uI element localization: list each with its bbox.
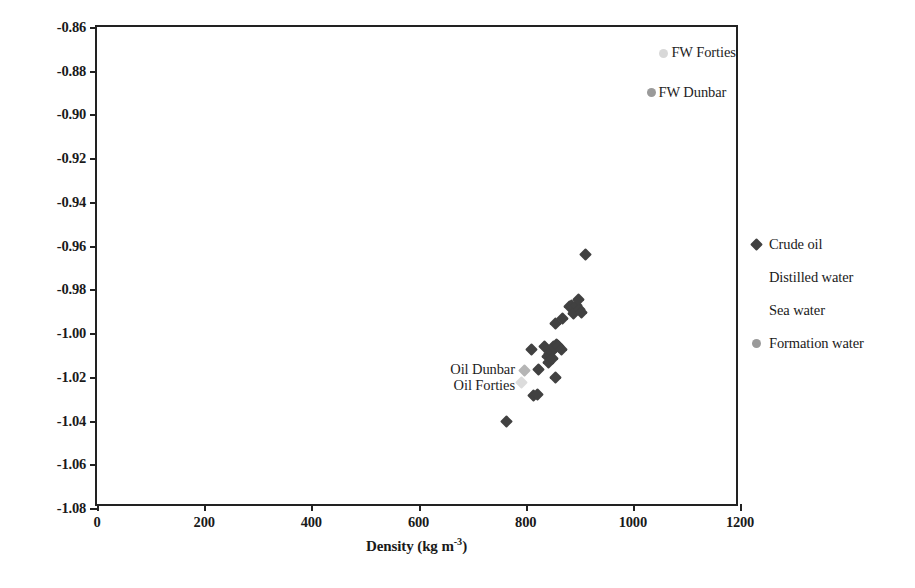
x-axis-tick bbox=[633, 504, 635, 511]
y-axis-tick-label: -0.94 bbox=[57, 193, 86, 210]
data-point bbox=[647, 88, 656, 97]
legend-item[interactable]: Crude oil bbox=[752, 228, 912, 261]
y-axis-tick-label: -0.90 bbox=[57, 106, 86, 123]
legend-label: Crude oil bbox=[769, 236, 822, 253]
y-axis-tick bbox=[90, 27, 97, 29]
x-axis-tick-label: 0 bbox=[93, 514, 100, 531]
x-axis-tick bbox=[740, 504, 742, 511]
x-axis-tick-label: 800 bbox=[515, 514, 536, 531]
y-axis-tick-label: -0.86 bbox=[57, 19, 86, 36]
legend-item[interactable]: Distilled water bbox=[752, 261, 912, 294]
y-axis-tick bbox=[90, 508, 97, 510]
data-point bbox=[579, 248, 592, 261]
y-axis-tick bbox=[90, 71, 97, 73]
y-axis-tick-label: -1.06 bbox=[57, 456, 86, 473]
x-axis-tick bbox=[419, 504, 421, 511]
data-point bbox=[532, 363, 545, 376]
x-axis-tick bbox=[204, 504, 206, 511]
data-point bbox=[525, 343, 538, 356]
plot-area: -0.86-0.88-0.90-0.92-0.94-0.96-0.98-1.00… bbox=[95, 25, 738, 506]
y-axis-tick bbox=[90, 202, 97, 204]
x-axis-title: Density (kg m-3) bbox=[95, 538, 738, 555]
legend-marker-circle-icon bbox=[752, 339, 761, 348]
annotation-fw-dunbar: FW Dunbar bbox=[659, 84, 727, 101]
x-axis-tick bbox=[311, 504, 313, 511]
y-axis-tick bbox=[90, 114, 97, 116]
data-point bbox=[659, 49, 668, 58]
y-axis-tick bbox=[90, 377, 97, 379]
y-axis-tick-label: -0.92 bbox=[57, 150, 86, 167]
x-axis-tick-label: 1200 bbox=[726, 514, 754, 531]
y-axis-tick-label: -1.08 bbox=[57, 500, 86, 517]
annotation-fw-forties: FW Forties bbox=[671, 44, 735, 61]
scatter-chart-figure: Mass magnetic susceptibility (10-8 m3kg-… bbox=[0, 0, 915, 588]
data-point bbox=[549, 372, 562, 385]
x-axis-tick bbox=[97, 504, 99, 511]
data-point-highlighted bbox=[515, 376, 528, 389]
y-axis-tick-label: -1.02 bbox=[57, 368, 86, 385]
y-axis-tick bbox=[90, 246, 97, 248]
y-axis-tick-label: -0.98 bbox=[57, 281, 86, 298]
annotation-oil-forties: Oil Forties bbox=[454, 377, 515, 394]
legend-label: Distilled water bbox=[769, 269, 853, 286]
data-point-highlighted bbox=[518, 364, 531, 377]
x-axis-tick-label: 400 bbox=[301, 514, 322, 531]
y-axis-tick-label: -0.96 bbox=[57, 237, 86, 254]
y-axis-tick bbox=[90, 421, 97, 423]
x-axis-tick-label: 600 bbox=[408, 514, 429, 531]
legend-marker-diamond-icon bbox=[750, 238, 763, 251]
legend-item[interactable]: Sea water bbox=[752, 294, 912, 327]
data-point bbox=[500, 415, 513, 428]
legend-label: Formation water bbox=[769, 335, 864, 352]
x-axis-tick-label: 1000 bbox=[619, 514, 647, 531]
x-axis-tick-label: 200 bbox=[194, 514, 215, 531]
chart-legend: Crude oilDistilled waterSea waterFormati… bbox=[752, 228, 912, 360]
y-axis-tick-label: -0.88 bbox=[57, 62, 86, 79]
y-axis-tick-label: -1.04 bbox=[57, 412, 86, 429]
y-axis-tick bbox=[90, 289, 97, 291]
y-axis-tick bbox=[90, 464, 97, 466]
y-axis-tick bbox=[90, 333, 97, 335]
y-axis-tick bbox=[90, 158, 97, 160]
legend-item[interactable]: Formation water bbox=[752, 327, 912, 360]
y-axis-tick-label: -1.00 bbox=[57, 325, 86, 342]
legend-label: Sea water bbox=[769, 302, 825, 319]
x-axis-tick bbox=[526, 504, 528, 511]
